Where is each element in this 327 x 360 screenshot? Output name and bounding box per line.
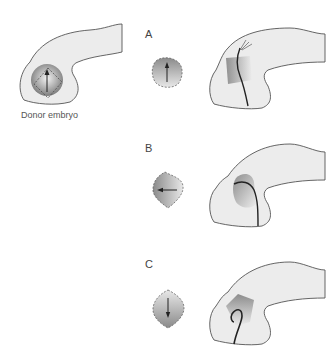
donor-embryo — [20, 24, 122, 104]
panel-label-a: A — [145, 28, 152, 40]
host-embryo-c — [210, 262, 325, 345]
donor-caption: Donor embryo — [21, 110, 78, 120]
panel-label-c: C — [145, 258, 153, 270]
host-embryo-a — [210, 28, 325, 109]
graft-piece-a — [152, 58, 182, 88]
host-graft-region — [226, 56, 252, 84]
diagram-canvas — [0, 0, 327, 360]
panel-label-b: B — [145, 142, 152, 154]
graft-piece-c — [153, 290, 184, 328]
panel-a — [152, 28, 325, 109]
graft-piece-b — [153, 172, 183, 208]
panel-c — [153, 262, 325, 345]
host-graft-region — [233, 174, 256, 208]
panel-b — [153, 144, 325, 227]
host-embryo-b — [210, 144, 325, 227]
